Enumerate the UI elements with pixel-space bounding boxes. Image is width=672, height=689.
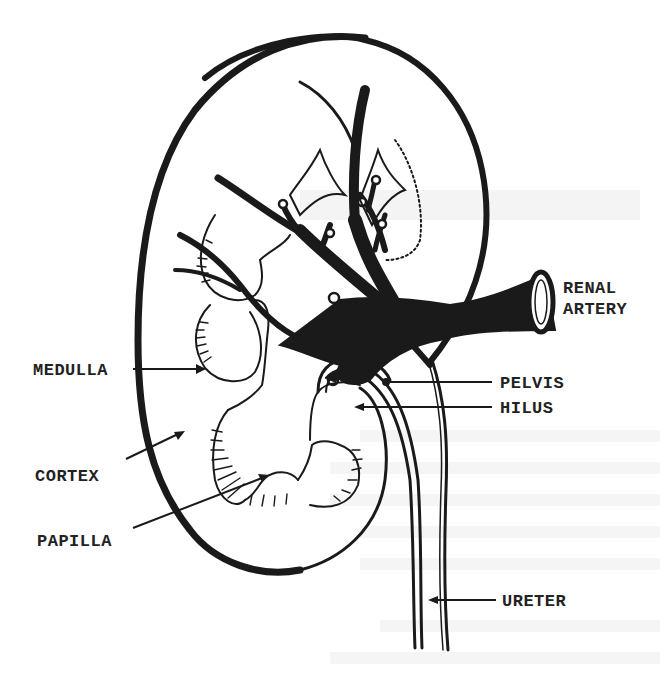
- label-renal-artery-line2: ARTERY: [563, 300, 628, 319]
- label-hilus: HILUS: [500, 399, 554, 418]
- kidney-anatomy-diagram: RENAL ARTERY MEDULLA PELVIS HILUS CORTEX…: [0, 0, 672, 689]
- renal-artery: [175, 82, 555, 385]
- label-medulla: MEDULLA: [33, 361, 108, 380]
- label-renal-artery-line1: RENAL: [563, 279, 617, 298]
- label-pelvis: PELVIS: [500, 374, 564, 393]
- label-papilla: PAPILLA: [37, 532, 112, 551]
- label-ureter: URETER: [502, 592, 567, 611]
- label-cortex: CORTEX: [35, 467, 100, 486]
